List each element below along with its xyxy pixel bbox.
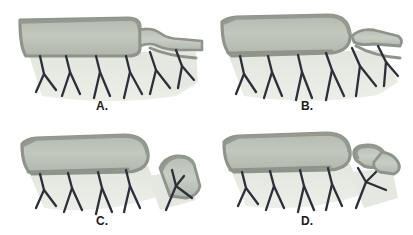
mesentery-b: [228, 50, 398, 101]
panel-label-c: C.: [96, 214, 108, 228]
panel-label-b: B.: [301, 99, 313, 113]
panel-a: [20, 18, 202, 101]
bowel-a: [20, 18, 140, 56]
panel-label-a: A.: [96, 99, 108, 113]
panel-c: [22, 135, 200, 214]
panel-label-d: D.: [301, 214, 313, 228]
bowel-c: [22, 135, 148, 174]
bowel-b-bottom-border: [228, 51, 332, 53]
panel-b: [222, 15, 402, 101]
bowel-d: [224, 133, 350, 172]
distal-loop-b: [352, 30, 402, 46]
anatomical-figure: A. B. C. D.: [0, 0, 413, 235]
panel-d: [224, 133, 399, 212]
figure-canvas: [0, 0, 413, 235]
